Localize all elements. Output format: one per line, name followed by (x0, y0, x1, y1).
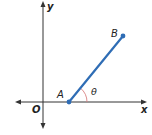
x-axis-label: x (140, 104, 148, 115)
y-axis-label: y (47, 1, 54, 12)
point-b-label: B (111, 28, 118, 39)
point-a (67, 100, 72, 105)
coordinate-diagram: y x O A B θ (0, 0, 152, 135)
point-a-label: A (56, 89, 64, 100)
theta-label: θ (91, 86, 97, 97)
y-axis-down-arrow-icon (41, 123, 46, 129)
origin-label: O (32, 104, 41, 115)
y-axis (41, 1, 46, 129)
point-b (121, 34, 126, 39)
angle-theta-arc (80, 88, 87, 102)
x-axis-left-arrow-icon (15, 100, 21, 105)
y-axis-up-arrow-icon (41, 1, 46, 7)
